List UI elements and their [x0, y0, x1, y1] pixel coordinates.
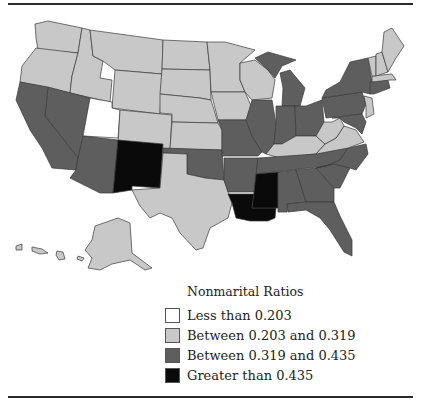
state-hawaii [16, 244, 84, 261]
legend-item-lowest: Less than 0.203 [165, 305, 356, 325]
states [16, 21, 404, 270]
legend-label: Between 0.203 and 0.319 [187, 328, 356, 343]
legend-swatch-black [165, 368, 180, 383]
legend-swatch-white [165, 308, 180, 323]
top-rule [8, 3, 413, 5]
legend-swatch-light-gray [165, 328, 180, 343]
legend-item-low: Between 0.203 and 0.319 [165, 325, 356, 345]
legend-item-high: Between 0.319 and 0.435 [165, 345, 356, 365]
state-florida [287, 202, 352, 256]
us-choropleth-map [0, 18, 421, 273]
state-mississippi [252, 172, 278, 208]
legend-label: Greater than 0.435 [187, 368, 313, 383]
state-kansas [170, 122, 222, 150]
state-new-jersey [364, 96, 374, 118]
legend-label: Between 0.319 and 0.435 [187, 348, 356, 363]
map-legend: Nonmarital Ratios Less than 0.203 Betwee… [165, 284, 356, 385]
legend-title: Nonmarital Ratios [187, 284, 356, 299]
state-new-mexico [113, 140, 163, 193]
legend-swatch-dark-gray [165, 348, 180, 363]
legend-label: Less than 0.203 [187, 308, 292, 323]
state-new-york [322, 58, 372, 98]
state-north-dakota [162, 40, 210, 70]
state-arkansas [224, 158, 258, 192]
bottom-rule [8, 396, 413, 398]
legend-item-highest: Greater than 0.435 [165, 365, 356, 385]
state-iowa [211, 92, 252, 120]
state-wyoming [112, 70, 162, 114]
state-washington [35, 21, 82, 53]
state-alaska [85, 218, 152, 270]
